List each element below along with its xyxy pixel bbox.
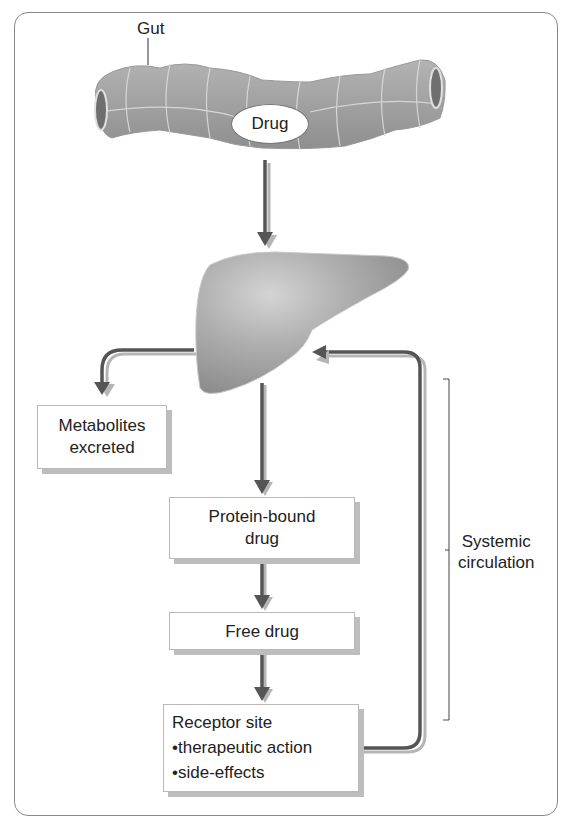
arrow-liver-to-protein-bound [254,383,273,496]
receptor-title: Receptor site [172,710,358,735]
receptor-bullet-therapeutic: •therapeutic action [172,735,358,760]
drug-label: Drug [252,114,289,134]
free-drug-box: Free drug [169,612,355,650]
protein-bound-line1: Protein-bound [170,506,354,528]
drug-oval: Drug [231,104,309,144]
receptor-site-box: Receptor site •therapeutic action •side-… [163,704,359,792]
arrow-liver-to-metabolites [94,350,196,397]
arrow-protein-to-free [254,562,273,611]
metabolites-line1: Metabolites [38,415,166,437]
receptor-bullet-side-effects: •side-effects [172,760,358,785]
systemic-bracket [443,379,449,720]
metabolites-excreted-box: Metabolites excreted [37,405,167,469]
systemic-label-line2: circulation [458,552,535,573]
metabolites-line2: excreted [38,437,166,459]
free-drug-label: Free drug [170,621,354,643]
arrow-gut-to-liver [257,160,277,249]
protein-bound-drug-box: Protein-bound drug [169,497,355,559]
protein-bound-line2: drug [170,528,354,550]
arrow-free-to-receptor [254,653,273,703]
systemic-label-line1: Systemic [458,531,535,552]
gut-label: Gut [137,18,164,39]
liver-illustration [196,252,409,394]
systemic-circulation-label: Systemic circulation [458,531,535,573]
